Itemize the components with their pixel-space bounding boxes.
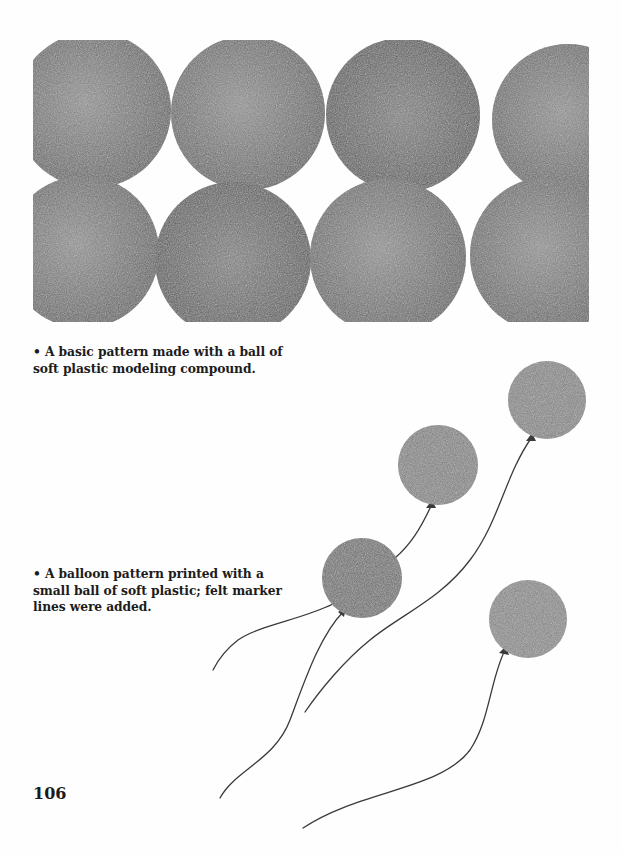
caption-text: A balloon pattern printed with a small b…	[33, 566, 282, 614]
circle-pattern-photo	[33, 40, 589, 322]
bullet: •	[33, 566, 45, 581]
page-number: 106	[33, 784, 66, 803]
caption-text: A basic pattern made with a ball of soft…	[33, 344, 282, 376]
caption-balloon-pattern: • A balloon pattern printed with a small…	[33, 566, 293, 616]
bullet: •	[33, 344, 45, 359]
book-page: • A basic pattern made with a ball of so…	[0, 0, 622, 854]
caption-basic-pattern: • A basic pattern made with a ball of so…	[33, 344, 293, 377]
